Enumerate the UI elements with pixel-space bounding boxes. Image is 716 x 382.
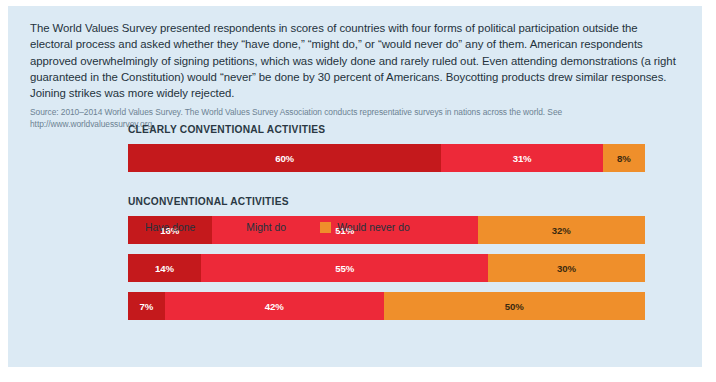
legend-label: Would never do xyxy=(337,222,410,233)
bar-segment: 31% xyxy=(441,144,603,172)
bar-segment: 32% xyxy=(478,216,645,244)
legend-item: Have done xyxy=(128,222,195,233)
bar-segment: 7% xyxy=(128,292,165,320)
legend-swatch-icon xyxy=(320,222,331,233)
legend-swatch-icon xyxy=(128,222,139,233)
bar-segment: 42% xyxy=(165,292,384,320)
stacked-bar: 14%55%30% xyxy=(128,254,650,282)
bar-segment: 30% xyxy=(488,254,645,282)
legend-label: Have done xyxy=(145,222,195,233)
legend-item: Would never do xyxy=(320,222,410,233)
section-heading: CLEARLY CONVENTIONAL ACTIVITIES xyxy=(128,124,325,135)
section-heading: UNCONVENTIONAL ACTIVITIES xyxy=(128,196,289,207)
legend-label: Might do xyxy=(246,222,286,233)
chart-legend: Have doneMight doWould never do xyxy=(128,222,444,233)
stacked-bar: 7%42%50% xyxy=(128,292,650,320)
bar-segment: 60% xyxy=(128,144,441,172)
stacked-bar: 60%31%8% xyxy=(128,144,650,172)
bar-segment: 55% xyxy=(201,254,488,282)
legend-swatch-icon xyxy=(229,222,240,233)
bar-segment: 50% xyxy=(384,292,645,320)
intro-text-block: The World Values Survey presented respon… xyxy=(30,20,678,130)
bar-segment: 14% xyxy=(128,254,201,282)
figure-panel: The World Values Survey presented respon… xyxy=(8,6,702,367)
legend-item: Might do xyxy=(229,222,286,233)
bar-segment: 8% xyxy=(603,144,645,172)
intro-paragraph: The World Values Survey presented respon… xyxy=(30,20,678,101)
